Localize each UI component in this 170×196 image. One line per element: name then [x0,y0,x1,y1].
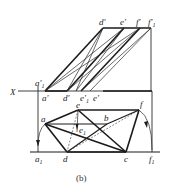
arc-f-to-f1 [139,110,152,150]
upper-thin-3 [67,28,103,91]
upper-thin-8 [76,28,124,91]
label-d: d [63,154,68,164]
upper-thin-4 [67,28,140,91]
label-a: a [41,114,46,124]
label-e-prime-top: e' [120,17,127,27]
projection-diagram: X d' e' f' f'1 a'1 a' d' e'1 e' a e b f … [0,0,170,196]
label-a1: a1 [35,154,43,165]
label-c: c [124,154,128,164]
upper-thin-1 [45,28,124,91]
axis-label-x: X [9,87,16,97]
label-f: f [140,99,144,109]
label-f-prime: f' [136,17,142,27]
label-a-prime: a' [42,93,50,103]
figure-caption: (b) [76,173,87,183]
arrow-down-right-icon [144,121,148,128]
label-e-prime-bottom: e' [93,93,100,103]
label-d-prime-bottom: d' [63,93,71,103]
label-b: b [104,113,109,123]
edge-a-d-prime [45,28,103,91]
label-d-prime: d' [99,17,107,27]
label-a1-prime: a'1 [35,78,44,89]
edge-a-e [45,110,78,124]
edge-a-c [45,124,126,152]
label-e1: e1 [79,125,86,136]
edge-d-e-prime [67,28,124,91]
label-f1: f1 [149,154,155,165]
label-e1-prime: e'1 [80,93,89,104]
label-e: e [76,100,80,110]
label-f1-prime: f'1 [148,17,155,28]
upper-thin-2 [45,28,140,91]
edge-b-f [107,110,139,124]
